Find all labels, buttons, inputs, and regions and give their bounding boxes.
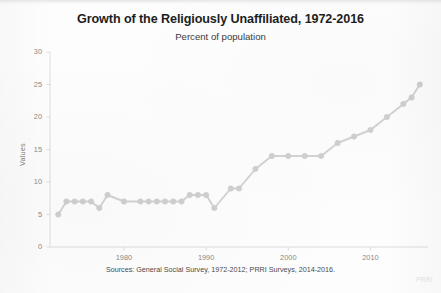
x-tick-label: 1980 xyxy=(104,253,144,262)
x-tick-label: 1990 xyxy=(186,253,226,262)
y-tick-label: 0 xyxy=(20,242,42,251)
y-tick-label: 30 xyxy=(20,47,42,56)
data-point-marker xyxy=(138,199,143,204)
data-point-marker xyxy=(236,186,241,191)
data-point-marker xyxy=(384,114,389,119)
chart-figure: Growth of the Religiously Unaffiliated, … xyxy=(0,0,441,293)
data-point-marker xyxy=(335,140,340,145)
data-point-marker xyxy=(212,205,217,210)
data-point-marker xyxy=(195,192,200,197)
plot-area xyxy=(0,0,441,293)
data-point-marker xyxy=(88,199,93,204)
data-point-marker xyxy=(302,153,307,158)
data-point-marker xyxy=(80,199,85,204)
data-point-marker xyxy=(401,101,406,106)
data-point-marker xyxy=(171,199,176,204)
y-tick-label: 20 xyxy=(20,112,42,121)
data-point-marker xyxy=(318,153,323,158)
data-point-marker xyxy=(203,192,208,197)
y-axis-label: Values xyxy=(18,125,27,185)
y-tick-label: 15 xyxy=(20,145,42,154)
data-series-line xyxy=(58,85,420,215)
data-point-marker xyxy=(417,82,422,87)
data-point-marker xyxy=(64,199,69,204)
data-point-marker xyxy=(154,199,159,204)
data-point-marker xyxy=(56,212,61,217)
data-point-marker xyxy=(146,199,151,204)
y-tick-label: 5 xyxy=(20,210,42,219)
y-tick-label: 25 xyxy=(20,80,42,89)
data-point-marker xyxy=(187,192,192,197)
data-point-marker xyxy=(351,134,356,139)
data-point-marker xyxy=(409,95,414,100)
data-point-marker xyxy=(228,186,233,191)
line-chart-svg xyxy=(0,0,441,293)
watermark-logo: PRRI xyxy=(416,276,433,283)
y-tick-label: 10 xyxy=(20,177,42,186)
data-point-marker xyxy=(253,166,258,171)
x-tick-label: 2000 xyxy=(268,253,308,262)
source-caption: Sources: General Social Survey, 1972-201… xyxy=(0,265,441,274)
data-point-marker xyxy=(286,153,291,158)
data-point-marker xyxy=(162,199,167,204)
data-point-marker xyxy=(105,192,110,197)
data-point-marker xyxy=(368,127,373,132)
data-point-marker xyxy=(179,199,184,204)
data-point-marker xyxy=(121,199,126,204)
data-point-marker xyxy=(72,199,77,204)
data-point-marker xyxy=(269,153,274,158)
x-tick-label: 2010 xyxy=(350,253,390,262)
data-point-marker xyxy=(97,205,102,210)
